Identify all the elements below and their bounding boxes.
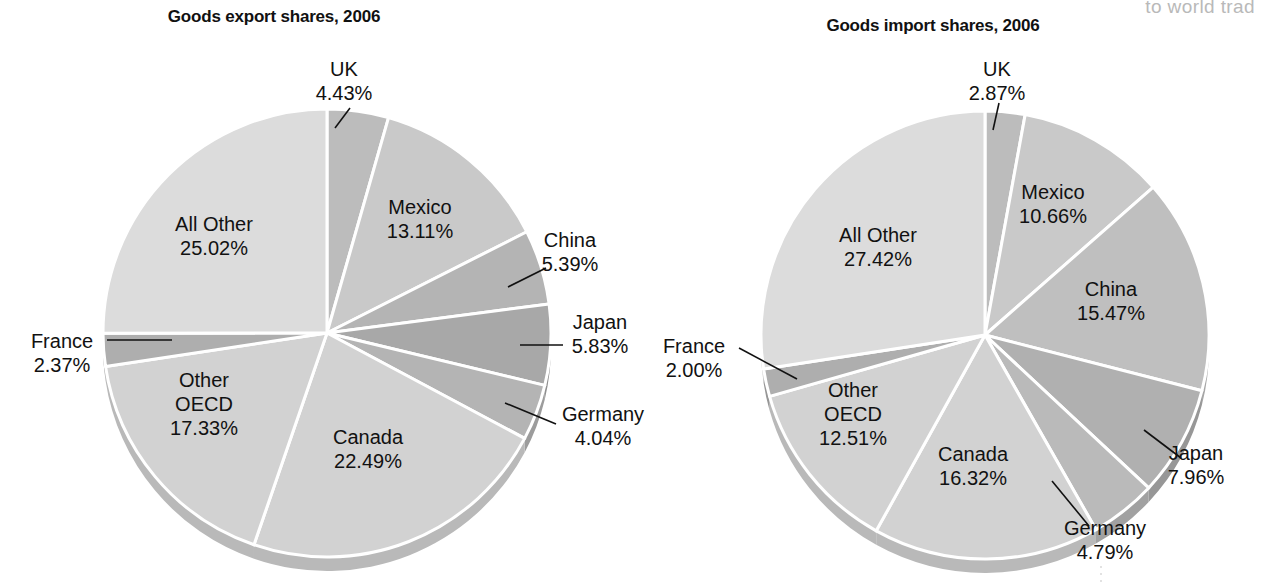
chart-title-goods-export-shares: Goods export shares, 2006 — [168, 7, 380, 26]
slice-label-other-oecd: OtherOECD17.33% — [170, 369, 238, 439]
slice-label-uk: UK2.87% — [969, 58, 1026, 104]
slice-label-france: France2.37% — [31, 330, 93, 376]
pie-top-goods-import-shares — [761, 111, 1209, 559]
slice-label-other-oecd: OtherOECD12.51% — [819, 379, 887, 449]
pie-top-goods-export-shares — [103, 109, 551, 557]
slice-label-france: France2.00% — [663, 335, 725, 381]
page-speck — [1100, 573, 1102, 575]
cropped-header-text: to world trad — [1145, 0, 1255, 18]
pie-chart-goods-import-shares: Goods import shares, 2006UK2.87%Mexico10… — [663, 16, 1225, 573]
slice-label-japan: Japan5.83% — [572, 311, 629, 357]
slice-label-china: China5.39% — [542, 229, 599, 275]
pie-charts-svg: Goods export shares, 2006UK4.43%Mexico13… — [0, 0, 1261, 583]
page-speck — [1100, 580, 1102, 582]
slice-label-germany: Germany4.04% — [562, 403, 644, 449]
chart-title-goods-import-shares: Goods import shares, 2006 — [826, 16, 1039, 35]
pie-chart-goods-export-shares: Goods export shares, 2006UK4.43%Mexico13… — [31, 7, 644, 571]
page-speck — [1100, 566, 1102, 568]
slice-label-uk: UK4.43% — [316, 58, 373, 104]
figure-root: Goods export shares, 2006UK4.43%Mexico13… — [0, 0, 1261, 583]
